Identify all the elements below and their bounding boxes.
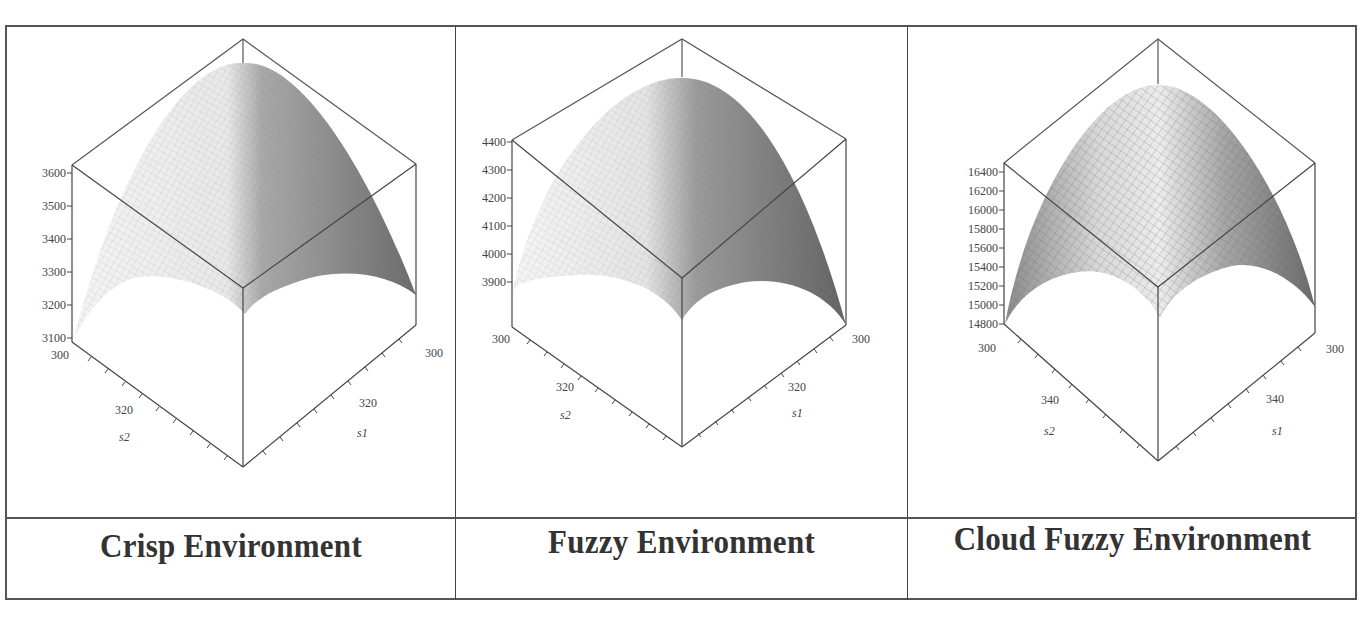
svg-text:s1: s1 [1272, 424, 1283, 438]
svg-text:340: 340 [1266, 392, 1284, 406]
svg-text:3500: 3500 [42, 199, 66, 213]
plot-cloud-fuzzy: 16400 16200 16000 15800 15600 15400 1520… [908, 27, 1357, 517]
svg-text:s2: s2 [119, 430, 130, 444]
panel-label: Fuzzy Environment [456, 517, 907, 563]
svg-text:3900: 3900 [482, 275, 506, 289]
svg-text:s2: s2 [1044, 424, 1055, 438]
svg-text:15800: 15800 [968, 222, 998, 236]
svg-text:3200: 3200 [42, 298, 66, 312]
svg-text:300: 300 [852, 332, 870, 346]
svg-text:340: 340 [1041, 393, 1059, 407]
svg-text:4400: 4400 [482, 135, 506, 149]
svg-text:320: 320 [556, 380, 574, 394]
svg-text:3300: 3300 [42, 265, 66, 279]
plot-fuzzy: 4400 4300 4200 4100 4000 3900 300 [456, 27, 907, 517]
svg-text:3100: 3100 [42, 331, 66, 345]
label-cell-crisp: Crisp Environment [7, 519, 455, 600]
svg-text:16400: 16400 [968, 165, 998, 179]
surface-plot-cloud-fuzzy: 16400 16200 16000 15800 15600 15400 1520… [908, 27, 1357, 517]
svg-text:4000: 4000 [482, 247, 506, 261]
svg-text:15600: 15600 [968, 241, 998, 255]
svg-text:4100: 4100 [482, 219, 506, 233]
svg-text:300: 300 [492, 332, 510, 346]
svg-text:16200: 16200 [968, 184, 998, 198]
svg-text:15200: 15200 [968, 279, 998, 293]
svg-text:15000: 15000 [968, 298, 998, 312]
svg-text:300: 300 [51, 348, 69, 362]
svg-text:300: 300 [1326, 342, 1344, 356]
svg-text:300: 300 [425, 346, 443, 360]
svg-text:320: 320 [359, 396, 377, 410]
svg-text:4200: 4200 [482, 191, 506, 205]
surface-plot-fuzzy: 4400 4300 4200 4100 4000 3900 300 [456, 27, 907, 517]
svg-text:s1: s1 [357, 426, 368, 440]
svg-text:4300: 4300 [482, 163, 506, 177]
figure-table: 3600 3500 3400 3300 3200 3100 [5, 25, 1357, 600]
svg-text:15400: 15400 [968, 260, 998, 274]
label-cell-fuzzy: Fuzzy Environment [456, 519, 907, 600]
label-cell-cloud-fuzzy: Cloud Fuzzy Environment [908, 519, 1357, 600]
svg-text:s2: s2 [560, 408, 571, 422]
svg-text:s1: s1 [792, 406, 803, 420]
svg-text:300: 300 [978, 341, 996, 355]
svg-text:320: 320 [788, 380, 806, 394]
panel-label: Cloud Fuzzy Environment [908, 517, 1357, 560]
svg-text:3400: 3400 [42, 232, 66, 246]
svg-text:320: 320 [115, 403, 133, 417]
panel-label: Crisp Environment [7, 516, 455, 565]
svg-text:16000: 16000 [968, 203, 998, 217]
plot-crisp: 3600 3500 3400 3300 3200 3100 [7, 27, 455, 517]
surface-plot-crisp: 3600 3500 3400 3300 3200 3100 [7, 27, 455, 517]
svg-text:14800: 14800 [968, 317, 998, 331]
svg-text:3600: 3600 [42, 166, 66, 180]
